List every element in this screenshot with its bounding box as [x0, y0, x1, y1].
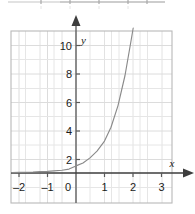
- y-tick-label-10: 10: [60, 40, 72, 52]
- y-tick-label-8: 8: [66, 68, 72, 80]
- y-axis-arrowhead-icon: [72, 15, 81, 26]
- x-tick-label-0: 0: [65, 181, 71, 193]
- graph-figure: 10 8 6 4 2 –2 –1 0 1 2 3 y x: [0, 0, 195, 214]
- x-tick-label-2: 2: [130, 181, 136, 193]
- y-tick-label-4: 4: [66, 125, 72, 137]
- x-axis-arrowhead-icon: [183, 169, 194, 178]
- x-axis-label: x: [169, 157, 175, 169]
- coordinate-plane: 10 8 6 4 2 –2 –1 0 1 2 3 y x: [0, 0, 195, 214]
- x-tick-label-neg1: –1: [41, 181, 53, 193]
- y-tick-label-6: 6: [66, 97, 72, 109]
- x-tick-label-1: 1: [101, 181, 107, 193]
- y-tick-label-2: 2: [66, 154, 72, 166]
- x-tick-label-neg2: –2: [13, 181, 25, 193]
- exponential-curve: [12, 28, 133, 173]
- x-tick-label-3: 3: [158, 181, 164, 193]
- y-axis-label: y: [80, 34, 86, 46]
